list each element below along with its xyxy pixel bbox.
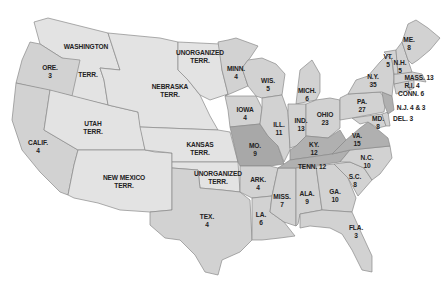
label-tennessee: TENN. 12	[298, 163, 326, 171]
label-massachusetts: MASS. 13	[404, 74, 433, 82]
label-maine: ME.8	[403, 36, 414, 52]
label-arkansas: ARK.4	[250, 176, 266, 192]
label-ohio: OHIO23	[317, 111, 333, 127]
label-delaware: DEL. 3	[393, 115, 413, 123]
label-alabama: ALA.9	[300, 190, 315, 206]
label-florida: FLA.3	[349, 224, 363, 240]
label-indiana: IND.13	[295, 117, 308, 133]
label-new-jersey: N.J. 4 & 3	[397, 104, 426, 112]
label-kansas: KANSASTERR.	[186, 141, 213, 157]
label-louisiana: LA.6	[256, 211, 266, 227]
label-michigan: MICH.6	[298, 87, 316, 103]
label-south-carolina: S.C.8	[349, 173, 361, 189]
label-wisconsin: WIS.5	[261, 77, 275, 93]
label-nebraska: NEBRASKATERR.	[152, 83, 189, 99]
label-new-mexico: NEW MEXICOTERR.	[103, 174, 145, 190]
label-missouri: MO.9	[249, 142, 261, 158]
label-north-carolina: N.C.10	[361, 154, 374, 170]
label-illinois: ILL.11	[273, 121, 284, 137]
label-california: CALIF.4	[28, 139, 48, 155]
label-virginia: VA.15	[352, 132, 362, 148]
label-unorganized-south: UNORGANIZEDTERR.	[194, 170, 242, 186]
label-georgia: GA.10	[329, 188, 340, 204]
region-florida	[300, 210, 372, 272]
label-oregon: ORE.3	[42, 64, 58, 80]
label-iowa: IOWA4	[236, 106, 253, 122]
label-kentucky: KY.12	[309, 141, 319, 157]
label-utah: UTAHTERR.	[83, 120, 102, 136]
label-texas: TEX.4	[200, 213, 214, 229]
label-vermont: VT.5	[383, 53, 392, 69]
label-connecticut: CONN. 6	[398, 90, 424, 98]
label-unorganized-north: UNORGANIZEDTERR.	[176, 49, 224, 65]
label-minnesota: MINN.4	[227, 65, 245, 81]
label-washington-terr: TERR.	[78, 71, 97, 79]
label-washington: WASHINGTON	[64, 43, 108, 51]
label-mississippi: MISS.7	[273, 193, 290, 209]
label-new-hampshire: N.H.5	[394, 59, 407, 75]
label-new-york: N.Y.35	[367, 73, 379, 89]
label-rhode-island: R.I. 4	[404, 82, 419, 90]
label-maryland: MD.8	[372, 115, 384, 131]
label-pennsylvania: PA.27	[357, 98, 367, 114]
